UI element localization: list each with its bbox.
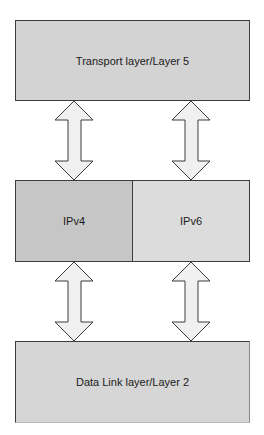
double-arrow-icon: [55, 101, 93, 180]
double-arrow-icon: [55, 262, 93, 341]
double-arrow-icon: [172, 262, 210, 341]
double-arrow-icon: [172, 101, 210, 180]
connection-arrows: [0, 0, 264, 435]
